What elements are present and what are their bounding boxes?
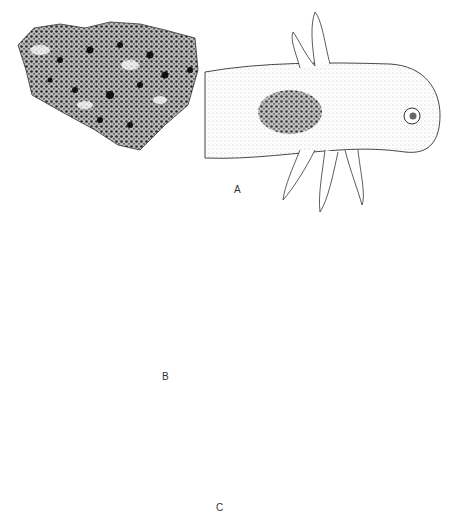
- panel-a-skin-patch: [18, 22, 198, 150]
- figure-canvas: [0, 0, 450, 516]
- panel-label-c: C: [216, 502, 223, 513]
- panel-label-a: A: [234, 184, 241, 195]
- panel-a-larva: [205, 12, 440, 212]
- panel-label-b: B: [162, 371, 169, 382]
